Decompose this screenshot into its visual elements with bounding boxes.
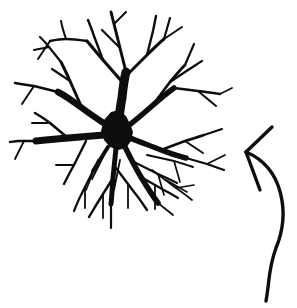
left-upper-trunk xyxy=(58,92,108,126)
basal-branch-r4a xyxy=(174,161,180,182)
curved-pointer-arrow xyxy=(246,127,283,301)
apical-branch-left-1d xyxy=(38,41,50,59)
right-upper-branch-2b xyxy=(220,88,232,94)
neuron-cell xyxy=(10,12,232,228)
neuron-drawing-svg xyxy=(0,0,297,308)
right-mid-branch-1a xyxy=(185,141,203,153)
left-lateral-branch-2a xyxy=(15,141,24,159)
apical-branch-left-1c xyxy=(61,21,66,39)
right-upper-trunk xyxy=(128,88,174,126)
left-lateral-trunk xyxy=(36,135,104,141)
basal-trunk-center xyxy=(111,148,116,204)
arrow-head-upper-barb xyxy=(246,127,272,152)
left-lower-branch-2 xyxy=(74,171,93,211)
apical-branch-up-1b xyxy=(114,12,126,24)
soma xyxy=(101,110,133,150)
right-mid-branch-1 xyxy=(161,135,204,150)
right-mid-branch-2 xyxy=(186,158,224,170)
arrow-shaft xyxy=(246,152,283,301)
right-upper-branch-1b xyxy=(185,44,194,65)
left-upper-branch-2 xyxy=(15,83,58,92)
right-lateral-trunk xyxy=(130,138,186,158)
left-upper-branch-2a xyxy=(22,86,34,104)
left-lower-branch-1 xyxy=(64,141,86,184)
right-mid-branch-1b xyxy=(204,129,222,135)
apical-branch-right-1 xyxy=(126,39,164,76)
figure-canvas: Neuron dendritic arborization drawing mu… xyxy=(0,0,297,308)
left-upper-branch-1c xyxy=(34,47,49,50)
left-lateral-branch-1 xyxy=(35,113,68,138)
basal-trunk-left xyxy=(93,147,108,171)
apical-branch-left-1b xyxy=(50,39,87,41)
apical-branch-left-1a xyxy=(88,20,103,60)
basal-branch-r3 xyxy=(158,203,173,215)
right-mid-branch-2a xyxy=(207,155,225,164)
